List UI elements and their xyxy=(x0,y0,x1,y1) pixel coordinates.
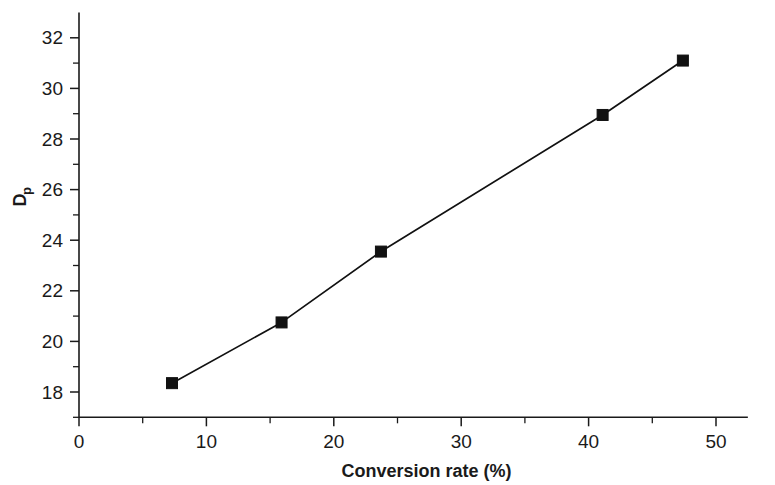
chart-tick-labels: 182022242628303201020304050 xyxy=(42,27,727,452)
y-tick-label: 18 xyxy=(42,382,63,403)
y-tick-label: 26 xyxy=(42,179,63,200)
x-tick-label: 30 xyxy=(451,431,472,452)
data-point-marker-2 xyxy=(276,317,287,328)
data-point-marker-3 xyxy=(375,246,386,257)
x-tick-label: 50 xyxy=(705,431,726,452)
x-tick-label: 10 xyxy=(196,431,217,452)
data-point-marker-4 xyxy=(597,109,608,120)
y-tick-label: 30 xyxy=(42,78,63,99)
y-axis-title: Dp xyxy=(10,187,34,207)
y-tick-label: 22 xyxy=(42,280,63,301)
data-point-marker-5 xyxy=(677,55,688,66)
y-tick-label: 28 xyxy=(42,129,63,150)
x-axis-title: Conversion rate (%) xyxy=(341,461,511,481)
data-point-marker-1 xyxy=(167,378,178,389)
chart-axes xyxy=(79,13,748,418)
x-tick-label: 0 xyxy=(74,431,85,452)
y-tick-label: 24 xyxy=(42,230,64,251)
y-tick-label: 20 xyxy=(42,331,63,352)
y-tick-label: 32 xyxy=(42,27,63,48)
chart-figure: 182022242628303201020304050 Conversion r… xyxy=(0,0,775,485)
y-axis-title-subscript: p xyxy=(19,187,34,195)
x-tick-label: 20 xyxy=(323,431,344,452)
series-line-path xyxy=(172,61,683,384)
chart-ticks xyxy=(70,38,716,427)
data-series-line xyxy=(172,61,683,384)
x-tick-label: 40 xyxy=(578,431,599,452)
data-point-markers xyxy=(167,55,689,389)
line-chart-canvas: 182022242628303201020304050 Conversion r… xyxy=(0,0,775,485)
